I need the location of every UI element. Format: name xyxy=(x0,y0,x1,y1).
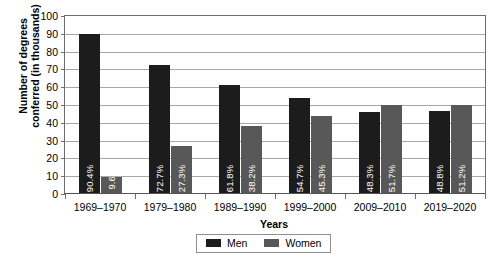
bar-value-label: 90.4% xyxy=(84,165,95,192)
bar-group: 48.8%51.2% xyxy=(415,16,485,194)
bar-men: 90.4% xyxy=(79,34,100,194)
y-axis-tick-label: 60 xyxy=(46,81,58,93)
bar-group: 61.8%38.2% xyxy=(205,16,275,194)
bar-value-label: 27.3% xyxy=(176,165,187,192)
x-axis-tick-mark xyxy=(485,194,486,199)
bar-group: 90.4%9.6% xyxy=(65,16,135,194)
bar-group: 48.3%51.7% xyxy=(345,16,415,194)
x-axis-category-label: 1989–1990 xyxy=(214,201,267,213)
y-axis-tick-label: 10 xyxy=(46,170,58,182)
axis-baseline xyxy=(65,193,485,194)
x-axis-category-label: 1969–1970 xyxy=(74,201,127,213)
x-axis-tick-mark xyxy=(275,194,276,199)
y-axis-tick-label: 50 xyxy=(46,99,58,111)
bar-men: 72.7% xyxy=(149,65,170,194)
bar-value-label: 45.3% xyxy=(316,165,327,192)
x-axis-category-label: 2019–2020 xyxy=(424,201,477,213)
bar-men: 61.8% xyxy=(219,85,240,194)
y-axis-title-line1: Number of degrees xyxy=(17,18,30,114)
y-axis-tick-label: 80 xyxy=(46,46,58,58)
y-axis-tick-label: 30 xyxy=(46,135,58,147)
legend-entry: Men xyxy=(206,237,247,249)
x-axis-title: Years xyxy=(64,218,484,230)
bar-women: 51.7% xyxy=(381,105,402,194)
bar-women: 38.2% xyxy=(241,126,262,194)
bar-value-label: 51.2% xyxy=(456,165,467,192)
bar-women: 45.3% xyxy=(311,116,332,194)
x-axis-tick-mark xyxy=(205,194,206,199)
y-axis-tick-label: 20 xyxy=(46,152,58,164)
y-axis-title: Number of degrees conferred (in thousand… xyxy=(12,0,46,151)
y-axis-title-line2: conferred (in thousands) xyxy=(29,4,42,128)
x-axis-category-label: 2009–2010 xyxy=(354,201,407,213)
chart-legend: MenWomen xyxy=(196,234,331,253)
bar-value-label: 48.8% xyxy=(434,165,445,192)
legend-label: Women xyxy=(285,237,321,249)
x-axis-tick-mark xyxy=(415,194,416,199)
x-axis-category-label: 1999–2000 xyxy=(284,201,337,213)
bar-women: 51.2% xyxy=(451,105,472,194)
legend-label: Men xyxy=(227,237,247,249)
y-axis-tick-label: 40 xyxy=(46,117,58,129)
y-axis-tick-label: 100 xyxy=(40,10,58,22)
legend-swatch-women xyxy=(264,239,279,247)
plot-area: 0102030405060708090100 90.4%9.6%72.7%27.… xyxy=(64,15,486,194)
x-axis-tick-mark xyxy=(135,194,136,199)
bar-value-label: 38.2% xyxy=(246,165,257,192)
bar-men: 54.7% xyxy=(289,98,310,194)
legend-swatch-men xyxy=(206,239,221,247)
x-axis-tick-mark xyxy=(345,194,346,199)
bar-value-label: 72.7% xyxy=(154,165,165,192)
bar-value-label: 51.7% xyxy=(386,165,397,192)
bar-value-label: 48.3% xyxy=(364,165,375,192)
bar-men: 48.3% xyxy=(359,112,380,194)
bar-value-label: 54.7% xyxy=(294,165,305,192)
bar-value-label: 9.6% xyxy=(106,167,117,189)
bar-group: 72.7%27.3% xyxy=(135,16,205,194)
bar-group: 54.7%45.3% xyxy=(275,16,345,194)
y-axis-tick-label: 0 xyxy=(52,188,58,200)
bar-value-label: 61.8% xyxy=(224,165,235,192)
y-axis-tick-label: 90 xyxy=(46,28,58,40)
x-axis-tick-mark xyxy=(65,194,66,199)
bar-women: 9.6% xyxy=(101,177,122,194)
bar-men: 48.8% xyxy=(429,111,450,194)
y-axis-tick-label: 70 xyxy=(46,63,58,75)
legend-entry: Women xyxy=(264,237,321,249)
x-axis-category-label: 1979–1980 xyxy=(144,201,197,213)
bar-women: 27.3% xyxy=(171,146,192,194)
bar-chart: Number of degrees conferred (in thousand… xyxy=(0,0,495,254)
